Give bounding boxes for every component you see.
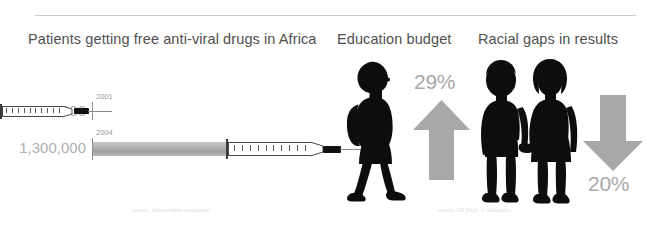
syringe-plunger-bar-2004 [93,142,228,156]
syringe-graduations [234,145,306,151]
header-divider [35,15,636,16]
syringe-graduations [6,108,60,113]
infographic-slide: Patients getting free anti-viral drugs i… [0,0,657,225]
arrow-down-icon [583,95,643,171]
bar-year-2004: 2004 [96,128,113,137]
two-children-holding-hands-icon [476,58,588,204]
panel-title-racial-gaps: Racial gaps in results [478,31,618,47]
source-caption-education: source: US Dept. of Education [437,207,511,213]
syringe-hub [74,108,89,114]
bar-year-2001: 2001 [96,92,113,101]
schoolchild-with-backpack-icon [340,58,416,204]
percent-label-education: 29% [414,70,455,94]
percent-label-racial-gaps: 20% [588,172,629,196]
bar-value-2004: 1,300,000 [2,139,86,156]
syringe-hub [323,146,341,153]
panel-title-education: Education budget [337,31,451,47]
syringe-needle [88,111,112,112]
arrow-up-icon [413,100,470,180]
source-caption-aids: source: Independent newspaper [132,207,210,213]
panel-title-aids: Patients getting free anti-viral drugs i… [28,31,317,47]
